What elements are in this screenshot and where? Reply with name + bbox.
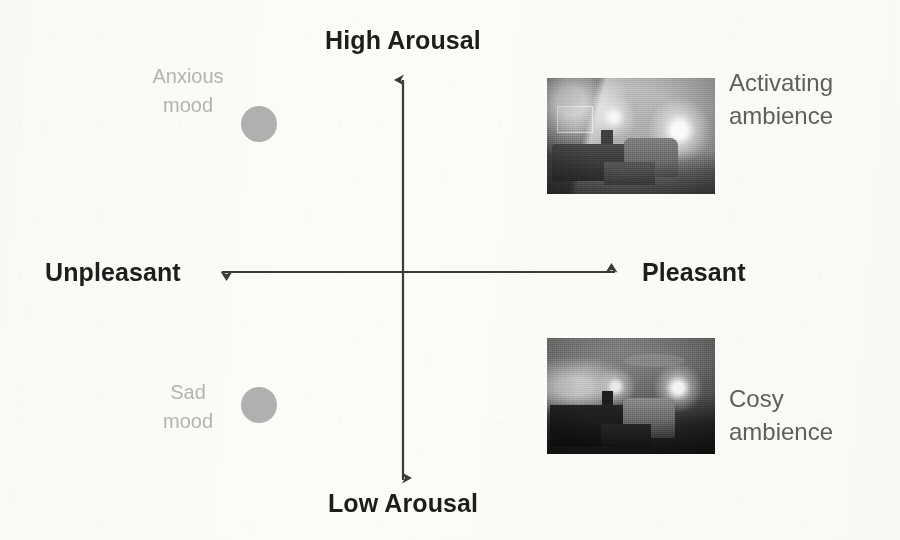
marker-label-anxious-mood-line2: mood xyxy=(136,91,240,120)
axis-label-low-arousal: Low Arousal xyxy=(0,489,806,518)
axis-label-high-arousal: High Arousal xyxy=(0,26,806,55)
photo-caption-activating-ambience: Activating ambience xyxy=(729,66,833,132)
marker-label-sad-mood-line2: mood xyxy=(136,407,240,436)
axis-label-pleasant: Pleasant xyxy=(642,258,746,287)
marker-dot-sad-mood xyxy=(241,387,277,423)
photo-vignette xyxy=(547,78,715,194)
photo-caption-cosy-ambience: Cosy ambience xyxy=(729,382,833,448)
marker-dot-anxious-mood xyxy=(241,106,277,142)
photo-vignette xyxy=(547,338,715,454)
marker-label-sad-mood: Sad mood xyxy=(136,378,240,436)
photo-activating-ambience xyxy=(547,78,715,194)
photo-cosy-ambience xyxy=(547,338,715,454)
figure-canvas: High Arousal Low Arousal Unpleasant Plea… xyxy=(0,0,900,540)
photo-caption-cosy-line2: ambience xyxy=(729,415,833,448)
marker-label-anxious-mood-line1: Anxious xyxy=(136,62,240,91)
photo-caption-activating-line1: Activating xyxy=(729,66,833,99)
axis-label-unpleasant: Unpleasant xyxy=(45,258,181,287)
photo-caption-cosy-line1: Cosy xyxy=(729,382,833,415)
marker-label-anxious-mood: Anxious mood xyxy=(136,62,240,120)
photo-caption-activating-line2: ambience xyxy=(729,99,833,132)
marker-label-sad-mood-line1: Sad xyxy=(136,378,240,407)
